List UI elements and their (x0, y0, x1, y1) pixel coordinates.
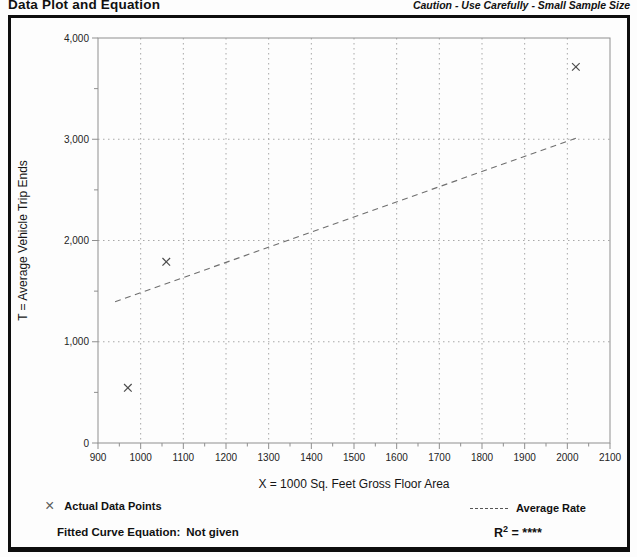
x-tick-label: 1300 (258, 452, 281, 463)
chart-box: 9001000110012001300140015001600170018001… (8, 15, 630, 552)
dashed-line-icon (470, 508, 508, 509)
caution-note: Caution - Use Carefully - Small Sample S… (413, 0, 630, 11)
x-tick-label: 1900 (514, 452, 537, 463)
r-squared-value: = **** (512, 526, 542, 540)
legend-actual-data-points: × Actual Data Points (45, 499, 162, 513)
x-marker-icon: × (45, 499, 54, 513)
x-tick-label: 2000 (556, 452, 579, 463)
r-squared-exponent: 2 (503, 524, 508, 534)
equation-value: Not given (186, 526, 238, 538)
r-squared-base: R (494, 526, 503, 540)
page-title: Data Plot and Equation (8, 0, 160, 12)
x-tick-label: 1200 (215, 452, 238, 463)
y-tick-label: 4,000 (64, 33, 89, 44)
y-tick-label: 1,000 (64, 336, 89, 347)
fitted-curve-equation: Fitted Curve Equation:Not given (57, 526, 239, 538)
report-page: Data Plot and Equation Caution - Use Car… (0, 0, 637, 557)
x-tick-label: 900 (90, 452, 107, 463)
x-tick-label: 1800 (471, 452, 494, 463)
x-tick-label: 1600 (386, 452, 409, 463)
y-tick-label: 2,000 (64, 235, 89, 246)
y-axis-title: T = Average Vehicle Trip Ends (16, 160, 30, 321)
x-axis-title: X = 1000 Sq. Feet Gross Floor Area (258, 477, 449, 491)
x-tick-label: 1500 (343, 452, 366, 463)
equation-label: Fitted Curve Equation: (57, 526, 180, 538)
r-squared: R2 = **** (494, 524, 542, 540)
y-tick-label: 0 (83, 438, 89, 449)
x-tick-label: 1700 (428, 452, 451, 463)
legend-actual-label: Actual Data Points (64, 500, 161, 512)
average-rate-line (115, 138, 576, 302)
x-tick-label: 1400 (300, 452, 323, 463)
legend-average-label: Average Rate (516, 502, 586, 514)
y-tick-label: 3,000 (64, 134, 89, 145)
x-tick-label: 1000 (130, 452, 153, 463)
scatter-plot: 9001000110012001300140015001600170018001… (11, 18, 627, 496)
x-tick-label: 2100 (599, 452, 622, 463)
x-tick-label: 1100 (173, 452, 195, 463)
legend-average-rate: Average Rate (470, 502, 586, 514)
